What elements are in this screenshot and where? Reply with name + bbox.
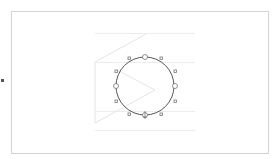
handle-lower-left[interactable] [115,100,118,103]
handle-upper-right[interactable] [174,70,177,73]
canvas-stage[interactable] [0,0,277,159]
handle-lower-right[interactable] [174,100,177,103]
handle-bottom-left[interactable] [128,113,131,116]
handle-top-right[interactable] [160,57,163,60]
selected-circle[interactable] [116,57,174,115]
handle-upper-left[interactable] [115,70,118,73]
handle-bottom-right[interactable] [160,113,163,116]
handle-left[interactable] [114,84,119,89]
handle-top-left[interactable] [128,57,131,60]
handle-top[interactable] [143,55,148,60]
background-sketch-path [95,34,155,123]
handle-right[interactable] [173,84,178,89]
